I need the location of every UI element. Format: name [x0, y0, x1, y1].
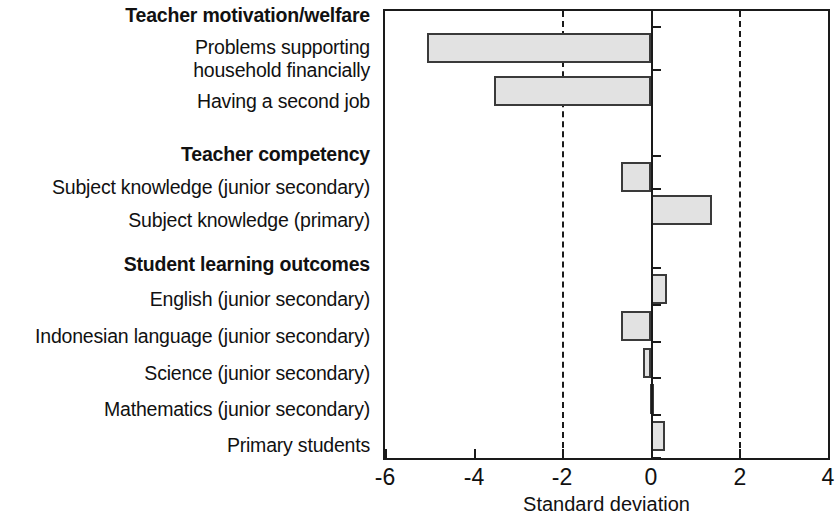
chart-figure: Teacher motivation/welfare Problems supp… [0, 0, 838, 521]
bar-6 [643, 348, 651, 378]
bar-1 [494, 76, 650, 106]
category-label-english-junior: English (junior secondary) [150, 288, 370, 311]
group-label-teacher-motivation: Teacher motivation/welfare [125, 4, 370, 27]
x-tick-neg2 [562, 449, 564, 458]
bar-0 [427, 33, 651, 63]
x-tick-label--6: -6 [375, 464, 395, 490]
category-label-problems-line2: household financially [193, 59, 370, 82]
category-label-mathematics-junior: Mathematics (junior secondary) [104, 398, 370, 421]
x-axis-tick-labels: -6 -4 -2 0 2 4 [383, 464, 830, 492]
x-tick-label--4: -4 [464, 464, 484, 490]
x-tick-label-0: 0 [645, 464, 658, 490]
x-tick-neg4 [474, 449, 476, 458]
plot-area [383, 9, 830, 460]
group-label-student-learning-outcomes: Student learning outcomes [124, 253, 370, 276]
bar-5 [621, 311, 651, 341]
x-tick-2 [739, 449, 741, 458]
x-tick-label--2: -2 [552, 464, 572, 490]
category-label-problems-line1: Problems supporting [195, 36, 370, 59]
category-label-second-job: Having a second job [197, 90, 370, 113]
x-tick-neg6 [385, 449, 387, 458]
x-tick-label-2: 2 [734, 464, 747, 490]
category-label-science-junior: Science (junior secondary) [144, 362, 370, 385]
bar-2 [621, 162, 651, 192]
x-tick-0 [651, 449, 653, 458]
x-tick-label-4: 4 [822, 464, 835, 490]
category-label-column: Teacher motivation/welfare Problems supp… [0, 0, 378, 470]
x-axis-title: Standard deviation [383, 492, 830, 516]
zero-reference-line [651, 11, 653, 458]
category-label-indonesian-junior: Indonesian language (junior secondary) [35, 325, 370, 348]
x-tick-4 [828, 449, 830, 458]
bar-3 [651, 195, 712, 225]
plot-inner [385, 11, 828, 458]
category-label-subject-knowledge-junior: Subject knowledge (junior secondary) [52, 176, 370, 199]
bar-4 [651, 274, 667, 304]
category-label-primary-students: Primary students [227, 434, 370, 457]
category-label-subject-knowledge-primary: Subject knowledge (primary) [128, 209, 370, 232]
gridline-2 [739, 11, 741, 458]
bar-8 [651, 421, 665, 451]
group-label-teacher-competency: Teacher competency [181, 143, 370, 166]
